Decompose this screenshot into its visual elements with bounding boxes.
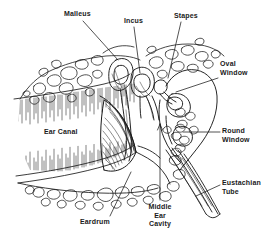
label-oval-window: Oval Window [220, 60, 248, 77]
label-incus: Incus [124, 17, 143, 26]
temporal-bone-lower [18, 183, 158, 193]
label-eardrum: Eardrum [80, 218, 110, 227]
ear-anatomy-figure: Malleus Incus Stapes Oval Window Round W… [0, 0, 273, 244]
label-malleus: Malleus [64, 10, 91, 19]
ear-anatomy-illustration [0, 0, 273, 244]
label-middle-ear-cavity: Middle Ear Cavity [140, 203, 180, 229]
stapes-bone [154, 80, 183, 110]
ear-canal-upper-wall [14, 74, 130, 99]
leader-lines [83, 21, 220, 216]
leader-incus [134, 27, 140, 73]
label-round-window: Round Window [222, 127, 250, 144]
incus-shading [136, 82, 153, 118]
cancellous-bone-texture-upper [23, 55, 103, 104]
incus-bone [131, 67, 159, 120]
label-eustachian-tube: Eustachian Tube [222, 179, 261, 196]
label-ear-canal: Ear Canal [44, 128, 78, 137]
eardrum-shading [103, 104, 135, 170]
label-stapes: Stapes [174, 12, 198, 21]
middle-ear-cavity [136, 146, 170, 184]
leader-malleus [83, 21, 118, 60]
leader-oval-window [176, 78, 218, 92]
